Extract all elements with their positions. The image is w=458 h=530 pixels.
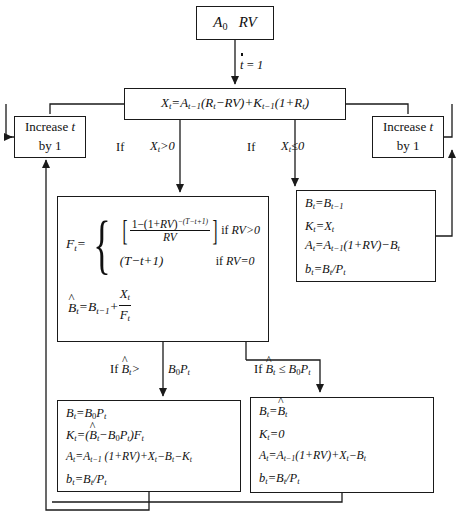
f-formula-row: Ft= { [ 1−(1+RV)−(T−t+1) RV ] if RV>0 <box>58 213 268 271</box>
bottom-right-line-1: Bt=Bt <box>259 402 433 421</box>
bhat-equation: Bt=Bt−1+XtFt <box>58 271 268 324</box>
right-box-line-3: At=At−1(1+RV)−Bt <box>305 236 435 255</box>
f-case-1-denominator: RV <box>130 231 211 243</box>
increase-t-left-box: Increase t by 1 <box>14 116 86 158</box>
increase-t-right-line2: by 1 <box>397 137 420 156</box>
f-case-1-numerator: 1−(1+RV)−(T−t+1) <box>130 217 211 231</box>
condition-left-label: Xt>0 <box>150 139 175 154</box>
increase-t-right-line1: Increase t <box>383 118 433 137</box>
bottom-left-box: Bt=B0Pt Kt=(Bt−B0Pt)Ft At=At−1 (1+RV)+Xt… <box>57 400 241 492</box>
increase-t-left-line1: Increase t <box>25 118 75 137</box>
bottom-left-line-4: bt=Bt/Pt <box>66 470 240 489</box>
f-case-1-condition: if RV>0 <box>221 222 260 239</box>
condition-right-label: Xt≤0 <box>281 139 304 154</box>
bottom-right-line-2: Kt=0 <box>259 425 433 444</box>
if-bhat-left-label: If Bt> <box>110 362 140 377</box>
main-equation-text: Xt=At−1(Rt−RV)+Kt−1(1+Rt) <box>161 94 309 113</box>
init-label: t = 1 <box>240 58 263 73</box>
condition-bhat-right-label: If Bt ≤ B0Pt <box>254 362 311 377</box>
increase-t-right-box: Increase t by 1 <box>372 116 444 158</box>
bottom-right-line-4: bt=Bt/Pt <box>259 469 433 488</box>
start-box-text: A0 RV <box>213 12 257 35</box>
right-box-line-2: Kt=Xt <box>305 217 435 236</box>
f-label: Ft= <box>66 234 86 255</box>
f-case-2-condition: if RV=0 <box>216 253 255 270</box>
f-case-2: (T−t+1) if RV=0 <box>120 252 260 271</box>
f-case-1-fraction: 1−(1+RV)−(T−t+1) RV <box>130 217 211 243</box>
bottom-left-line-3: At=At−1 (1+RV)+Xt−Bt−Kt <box>66 449 240 466</box>
f-case-1: [ 1−(1+RV)−(T−t+1) RV ] if RV>0 <box>120 217 260 243</box>
bottom-left-line-2: Kt=(Bt−B0Pt)Ft <box>66 426 240 445</box>
bottom-right-line-3: At=At−1(1+RV)+Xt−Bt <box>259 447 433 465</box>
f-formula-box: Ft= { [ 1−(1+RV)−(T−t+1) RV ] if RV>0 <box>57 196 269 342</box>
start-box: A0 RV <box>196 6 274 40</box>
flowchart-canvas: A0 RV t = 1 Xt=At−1(Rt−RV)+Kt−1(1+Rt) In… <box>0 0 458 530</box>
condition-bhat-left-label: B0Pt <box>168 362 190 377</box>
right-box-line-1: Bt=Bt−1 <box>305 194 435 213</box>
if-left-label: If <box>116 140 124 155</box>
right-assignment-box: Bt=Bt−1 Kt=Xt At=At−1(1+RV)−Bt bt=Bt/Pt <box>296 190 436 282</box>
bottom-right-box: Bt=Bt Kt=0 At=At−1(1+RV)+Xt−Bt bt=Bt/Pt <box>250 397 434 493</box>
main-equation-box: Xt=At−1(Rt−RV)+Kt−1(1+Rt) <box>124 88 346 120</box>
right-box-line-4: bt=Bt/Pt <box>305 260 435 279</box>
f-case-2-expr: (T−t+1) <box>120 252 216 271</box>
increase-t-left-line2: by 1 <box>39 137 62 156</box>
if-right-label: If <box>247 140 255 155</box>
